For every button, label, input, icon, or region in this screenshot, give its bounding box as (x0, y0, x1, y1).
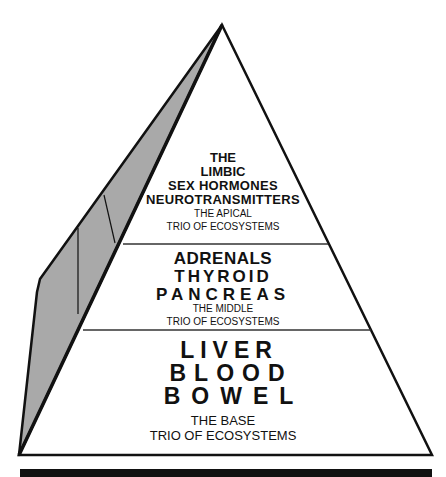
middle-line-pancreas: PANCREAS (0, 286, 446, 303)
base-caption-subtitle: TRIO OF ECOSYSTEMS (0, 429, 446, 442)
base-line-bowel: BOWEL (0, 385, 446, 408)
base-caption-title: THE BASE (0, 414, 446, 427)
apical-caption-title: THE APICAL (0, 209, 446, 219)
apical-line-sex-hormones: SEX HORMONES (0, 179, 446, 192)
middle-caption-title: THE MIDDLE (0, 304, 446, 314)
middle-caption-subtitle: TRIO OF ECOSYSTEMS (0, 317, 446, 327)
middle-line-thyroid: THYROID (0, 268, 446, 285)
base-line-blood: BLOOD (0, 362, 446, 385)
middle-line-adrenals: ADRENALS (0, 250, 446, 267)
apical-line-neurotransmitters: NEUROTRANSMITTERS (0, 193, 446, 206)
apical-line-limbic: LIMBIC (0, 165, 446, 178)
bottom-bar (20, 469, 432, 477)
apical-caption-subtitle: TRIO OF ECOSYSTEMS (0, 222, 446, 232)
apical-line-the: THE (0, 151, 446, 164)
base-line-liver: LIVER (0, 339, 446, 362)
